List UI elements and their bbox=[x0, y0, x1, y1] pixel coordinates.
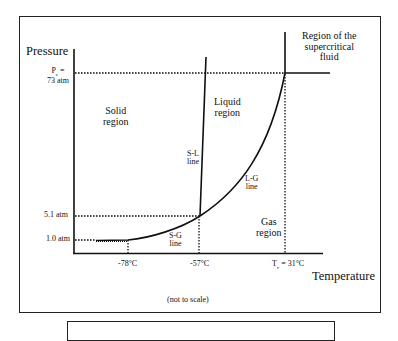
x-axis-label: Temperature bbox=[312, 270, 375, 283]
sl-curve bbox=[200, 57, 206, 216]
sg-line-label: S-Gline bbox=[169, 232, 182, 249]
tc-tick-label: Tc = 31°C bbox=[272, 260, 304, 270]
solid-region-label: Solidregion bbox=[103, 106, 129, 127]
lg-line-label: L-Gline bbox=[245, 175, 258, 192]
supercritical-region-label: Region of thesupercriticalfluid bbox=[302, 31, 356, 63]
liquid-region-label: Liquidregion bbox=[214, 97, 241, 118]
y-axis-label: Pressure bbox=[26, 45, 68, 58]
sg-curve bbox=[96, 216, 200, 241]
pc-tick-label: Pc = 73 atm bbox=[44, 67, 72, 85]
lg-curve bbox=[200, 73, 285, 216]
sl-line-label: S-Lline bbox=[187, 150, 199, 167]
p51-tick-label: 5.1 atm bbox=[44, 211, 68, 219]
t57-tick-label: -57°C bbox=[190, 260, 209, 268]
t78-tick-label: -78°C bbox=[118, 260, 137, 268]
p10-tick-label: 1.0 atm bbox=[46, 235, 70, 243]
gas-region-label: Gasregion bbox=[256, 217, 282, 238]
not-to-scale-note: (not to scale) bbox=[167, 296, 209, 304]
